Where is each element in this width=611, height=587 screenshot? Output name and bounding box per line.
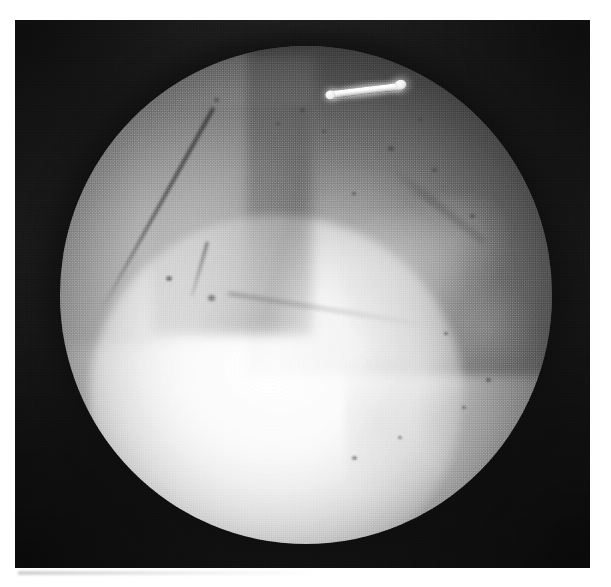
- circular-field-of-view: [60, 46, 552, 544]
- tissue-speck: [214, 98, 219, 102]
- tissue-region-mottled: [345, 195, 552, 484]
- tissue-speck: [276, 122, 280, 125]
- page-root: [0, 0, 611, 587]
- probe-tip-left: [325, 90, 336, 100]
- tissue-speck: [418, 118, 422, 121]
- tissue-speck: [166, 276, 172, 281]
- arthroscopic-photograph: [15, 20, 590, 568]
- tissue-speck: [352, 192, 356, 195]
- cartilage-edge-vertex: [208, 295, 215, 301]
- tissue-speck: [300, 108, 305, 112]
- scan-margin-smudge: [18, 571, 318, 575]
- tissue-speck: [432, 168, 437, 172]
- tissue-speck: [352, 456, 357, 460]
- tissue-speck: [470, 214, 475, 218]
- tissue-speck: [462, 406, 466, 409]
- tissue-speck: [486, 378, 491, 382]
- tissue-speck: [388, 146, 394, 151]
- probe-tip-right: [394, 79, 407, 90]
- tissue-speck: [444, 332, 448, 335]
- tissue-speck: [322, 130, 326, 133]
- cartilage-shadow-wedge: [152, 104, 312, 334]
- tissue-speck: [398, 436, 402, 439]
